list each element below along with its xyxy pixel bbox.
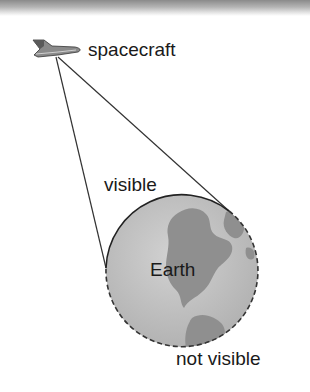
spacecraft-icon xyxy=(33,40,80,57)
earth-label: Earth xyxy=(150,260,195,279)
spacecraft-label: spacecraft xyxy=(88,40,176,59)
visible-label: visible xyxy=(104,175,157,194)
not-visible-label: not visible xyxy=(176,349,261,368)
